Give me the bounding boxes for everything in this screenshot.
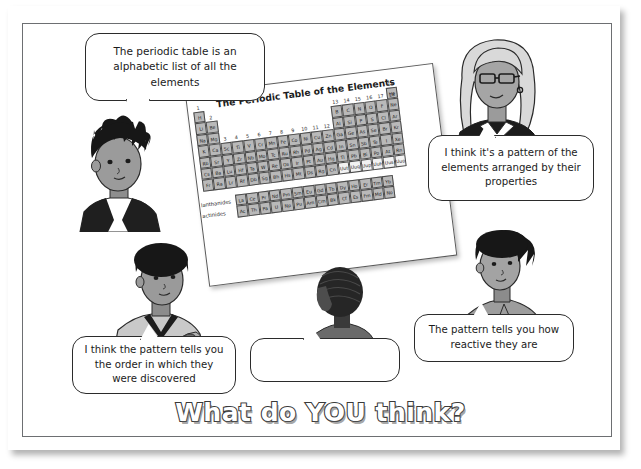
- speech-bubble-discovered: I think the pattern tells you the order …: [72, 336, 236, 394]
- periodic-table-cell-Uuo: Uuo: [394, 155, 407, 168]
- speech-bubble-alphabetic-text: The periodic table is an alphabetic list…: [86, 44, 264, 90]
- speech-bubble-discovered-text: I think the pattern tells you the order …: [73, 343, 235, 387]
- speech-bubble-properties: I think it's a pattern of the elements a…: [428, 135, 594, 201]
- person-spiky-haired-student-left: [58, 108, 174, 232]
- page-title: What do YOU think?: [0, 398, 641, 427]
- worksheet-page: The Periodic Table of the Elements HHeLi…: [0, 0, 641, 469]
- speech-bubble-reactive: The pattern tells you how reactive they …: [414, 314, 574, 362]
- speech-bubble-reactive-text: The pattern tells you how reactive they …: [415, 323, 573, 353]
- speech-bubble-alphabetic: The periodic table is an alphabetic list…: [85, 33, 265, 101]
- person-afro-student-bottom-left: [104, 238, 216, 350]
- periodic-table-cell-No: No: [383, 186, 396, 199]
- speech-bubble-properties-text: I think it's a pattern of the elements a…: [429, 146, 593, 190]
- speech-bubble-blank[interactable]: [250, 338, 400, 382]
- person-girl-with-glasses-top-right: [440, 30, 554, 148]
